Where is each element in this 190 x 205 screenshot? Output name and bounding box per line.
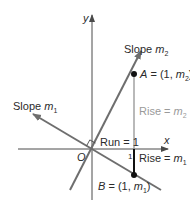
- point-a-var: m: [176, 68, 185, 80]
- rise-m1-sub: 1: [183, 159, 187, 166]
- point-b-var: m: [134, 180, 143, 192]
- slope-m2-label: Slope m2: [124, 43, 168, 57]
- rise-m1-label: Rise = m1: [139, 152, 187, 166]
- point-b-close: ): [147, 180, 151, 192]
- slope-m2-sub: 2: [164, 50, 168, 57]
- perpendicular-slopes-diagram: y x O 1 Slope m2 Slope m1 A = (1, m2) B …: [0, 0, 190, 205]
- rise-m2-var: m: [174, 105, 183, 117]
- point-a: [131, 71, 137, 77]
- slope-m1-sub: 1: [53, 107, 57, 114]
- line-m2: [70, 51, 141, 190]
- slope-m1-var: m: [44, 100, 53, 112]
- y-axis-label: y: [82, 12, 90, 24]
- run-label: Run = 1: [100, 136, 139, 148]
- rise-m1-var: m: [174, 152, 183, 164]
- slope-m1-label: Slope m1: [13, 100, 57, 114]
- rise-m1-prefix: Rise =: [139, 152, 174, 164]
- x-axis-label: x: [163, 134, 170, 146]
- point-a-name: A: [139, 68, 147, 80]
- point-b-name: B: [98, 180, 105, 192]
- rise-m2-sub: 2: [183, 112, 187, 119]
- point-a-label: A = (1, m2): [139, 68, 190, 82]
- point-a-close: ): [189, 68, 190, 80]
- slope-m2-prefix: Slope: [124, 43, 155, 55]
- slope-m1-prefix: Slope: [13, 100, 44, 112]
- point-b: [131, 172, 137, 178]
- point-a-eq: = (1,: [147, 68, 175, 80]
- slope-m2-var: m: [155, 43, 164, 55]
- diagram-canvas: y x O 1 Slope m2 Slope m1 A = (1, m2) B …: [0, 0, 190, 205]
- point-b-eq: = (1,: [105, 180, 133, 192]
- rise-m2-prefix: Rise =: [139, 105, 174, 117]
- tick-label-1: 1: [128, 152, 133, 161]
- origin-label: O: [77, 151, 86, 163]
- point-b-label: B = (1, m1): [98, 180, 151, 194]
- rise-m2-label: Rise = m2: [139, 105, 187, 119]
